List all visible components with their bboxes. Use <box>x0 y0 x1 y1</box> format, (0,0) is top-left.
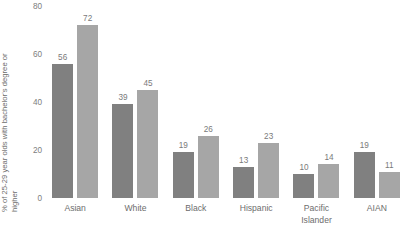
bar-group-bars: 1323 <box>226 6 286 198</box>
bar-fill <box>379 172 400 198</box>
x-category-label-line: Hispanic <box>226 203 286 215</box>
y-tick-label: 40 <box>22 98 42 107</box>
bar-group-bars: 1926 <box>166 6 226 198</box>
bar-value-label: 13 <box>227 156 261 165</box>
bar-group-bars: 3945 <box>105 6 165 198</box>
bar-group: 1323 <box>226 6 286 198</box>
y-axis-title-line-1: % of 25-29 year olds with bachelor's deg… <box>0 53 9 212</box>
bar-value-label: 23 <box>252 132 286 141</box>
bar-group: 1926 <box>166 6 226 198</box>
bar-group: 5672 <box>45 6 105 198</box>
x-category-label-line: Asian <box>45 203 105 215</box>
bar-value-label: 72 <box>71 14 105 23</box>
bar-fill <box>198 136 219 198</box>
y-axis-tick-labels: 806040200 <box>22 0 42 205</box>
bar-value-label: 11 <box>372 161 406 170</box>
bar[interactable] <box>137 6 158 198</box>
y-tick-label: 60 <box>22 50 42 59</box>
bar-group: 1014 <box>286 6 346 198</box>
bar-chart: % of 25-29 year olds with bachelor's deg… <box>0 0 413 246</box>
bar-value-label: 10 <box>287 163 321 172</box>
y-axis-title: % of 25-29 year olds with bachelor's deg… <box>0 0 24 205</box>
bar[interactable] <box>258 6 279 198</box>
bar-group-bars: 1911 <box>347 6 407 198</box>
x-category-label: White <box>105 203 165 215</box>
bar-value-label: 45 <box>131 79 165 88</box>
bar-group: 1911 <box>347 6 407 198</box>
x-category-label-line: Black <box>166 203 226 215</box>
x-category-label-line: Islander <box>286 215 346 227</box>
y-tick-label: 0 <box>22 194 42 203</box>
bar-fill <box>137 90 158 198</box>
x-category-label: PacificIslander <box>286 203 346 226</box>
bar-value-label: 56 <box>46 53 80 62</box>
bar-group-bars: 5672 <box>45 6 105 198</box>
bar-fill <box>173 152 194 198</box>
x-category-label: Hispanic <box>226 203 286 215</box>
bar-group: 3945 <box>105 6 165 198</box>
plot-area: 567239451926132310141911 <box>45 6 407 198</box>
x-category-label: AIAN <box>347 203 407 215</box>
y-tick-label: 20 <box>22 146 42 155</box>
x-category-label-line: AIAN <box>347 203 407 215</box>
bar-fill <box>354 152 375 198</box>
bar-group-bars: 1014 <box>286 6 346 198</box>
bar-fill <box>77 25 98 198</box>
bar-fill <box>233 167 254 198</box>
bar-fill <box>258 143 279 198</box>
x-category-label-line: Pacific <box>286 203 346 215</box>
bar[interactable] <box>198 6 219 198</box>
bar-value-label: 14 <box>312 153 346 162</box>
y-axis-title-line-2: higher <box>10 191 19 212</box>
y-tick-label: 80 <box>22 2 42 11</box>
bar-fill <box>52 64 73 198</box>
bar-value-label: 26 <box>191 125 225 134</box>
bar-fill <box>318 164 339 198</box>
bar[interactable] <box>173 6 194 198</box>
bar[interactable] <box>233 6 254 198</box>
bar[interactable] <box>52 6 73 198</box>
bar[interactable] <box>318 6 339 198</box>
x-category-label: Black <box>166 203 226 215</box>
x-category-label: Asian <box>45 203 105 215</box>
x-axis-category-labels: AsianWhiteBlackHispanicPacificIslanderAI… <box>45 203 407 246</box>
bar-fill <box>293 174 314 198</box>
bar[interactable] <box>77 6 98 198</box>
bar-value-label: 19 <box>347 141 381 150</box>
bar-fill <box>112 104 133 198</box>
bar-value-label: 39 <box>106 93 140 102</box>
x-category-label-line: White <box>105 203 165 215</box>
bar-value-label: 19 <box>166 141 200 150</box>
